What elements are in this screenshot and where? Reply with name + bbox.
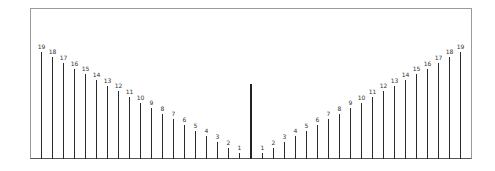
- right-bar: [394, 86, 395, 159]
- left-bar: [206, 136, 207, 159]
- right-bar: [306, 131, 307, 159]
- left-bar: [140, 103, 141, 160]
- right-bar-label: 16: [424, 61, 432, 67]
- right-bar: [460, 52, 461, 159]
- left-bar-label: 15: [82, 66, 90, 72]
- right-bar: [361, 103, 362, 160]
- left-bar: [162, 114, 163, 159]
- right-bar: [339, 114, 340, 159]
- left-bar-label: 8: [161, 106, 165, 112]
- center-bar: [250, 84, 252, 159]
- left-bar: [52, 57, 53, 159]
- left-bar: [129, 97, 130, 159]
- left-bar-label: 14: [93, 72, 101, 78]
- left-bar: [118, 91, 119, 159]
- right-bar: [416, 74, 417, 159]
- left-bar: [184, 125, 185, 159]
- left-bar: [74, 69, 75, 159]
- right-bar-label: 8: [338, 106, 342, 112]
- left-bar-label: 6: [183, 117, 187, 123]
- left-bar: [217, 142, 218, 159]
- right-bar-label: 15: [413, 66, 421, 72]
- left-bar: [173, 119, 174, 159]
- right-bar-label: 6: [316, 117, 320, 123]
- left-bar-label: 7: [172, 111, 176, 117]
- left-bar-label: 5: [194, 123, 198, 129]
- left-bar-label: 9: [150, 100, 154, 106]
- right-bar: [262, 153, 263, 159]
- left-bar-label: 13: [104, 78, 112, 84]
- right-bar-label: 11: [369, 89, 377, 95]
- left-bar-label: 2: [227, 140, 231, 146]
- right-bar-label: 5: [305, 123, 309, 129]
- right-bar: [273, 148, 274, 159]
- left-bar: [239, 153, 240, 159]
- right-bar-label: 14: [402, 72, 410, 78]
- right-bar-label: 9: [349, 100, 353, 106]
- left-bar-label: 1: [238, 145, 242, 151]
- right-bar: [284, 142, 285, 159]
- right-bar: [328, 119, 329, 159]
- left-bar-label: 4: [205, 128, 209, 134]
- right-bar-label: 1: [261, 145, 265, 151]
- right-bar: [295, 136, 296, 159]
- left-bar: [63, 63, 64, 159]
- right-bar: [405, 80, 406, 159]
- right-bar-label: 7: [327, 111, 331, 117]
- left-bar-label: 12: [115, 83, 123, 89]
- right-bar: [317, 125, 318, 159]
- left-bar-label: 19: [38, 44, 46, 50]
- right-bar-label: 13: [391, 78, 399, 84]
- left-bar-label: 11: [126, 89, 134, 95]
- right-bar-label: 12: [380, 83, 388, 89]
- right-bar-label: 4: [294, 128, 298, 134]
- right-bar: [383, 91, 384, 159]
- right-bar: [438, 63, 439, 159]
- right-bar-label: 2: [272, 140, 276, 146]
- right-bar-label: 19: [457, 44, 465, 50]
- right-bar-label: 18: [446, 49, 454, 55]
- left-bar: [85, 74, 86, 159]
- left-bar-label: 16: [71, 61, 79, 67]
- left-bar-label: 10: [137, 95, 145, 101]
- right-bar: [350, 108, 351, 159]
- left-bar: [96, 80, 97, 159]
- left-bar: [151, 108, 152, 159]
- right-bar-label: 10: [358, 95, 366, 101]
- right-bar-label: 3: [283, 134, 287, 140]
- right-bar: [427, 69, 428, 159]
- left-bar-label: 3: [216, 134, 220, 140]
- left-bar-label: 17: [60, 55, 68, 61]
- right-bar-label: 17: [435, 55, 443, 61]
- left-bar: [107, 86, 108, 159]
- left-bar: [228, 148, 229, 159]
- right-bar: [372, 97, 373, 159]
- left-bar-label: 18: [49, 49, 57, 55]
- left-bar: [41, 52, 42, 159]
- right-bar: [449, 57, 450, 159]
- left-bar: [195, 131, 196, 159]
